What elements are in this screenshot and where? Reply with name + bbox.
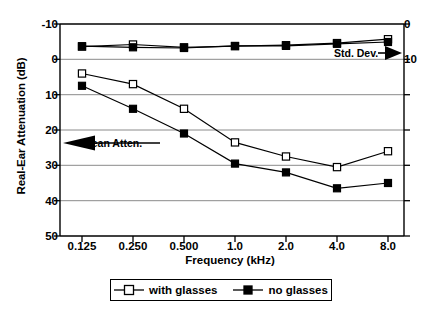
filled-square-marker — [232, 160, 239, 167]
filled-square-marker — [181, 45, 188, 52]
y2-tick-label: 10 — [404, 53, 438, 65]
std-dev-arrow — [378, 46, 402, 60]
filled-square-marker — [130, 105, 137, 112]
filled-square-marker — [283, 42, 290, 49]
y-tick-label: 20 — [24, 124, 58, 136]
gridlines — [60, 59, 404, 200]
open-square-marker — [180, 105, 187, 112]
y2-axis-tick-labels: 0 10 — [404, 0, 442, 312]
y-tick-label: 0 — [24, 53, 58, 65]
series-mean-atten-with-glasses — [78, 70, 391, 171]
chart-figure: Real-Ear Attenuation (dB) Frequency (kHz… — [0, 0, 442, 312]
legend-item-no-glasses[interactable]: no glasses — [233, 284, 327, 296]
legend-item-with-glasses[interactable]: with glasses — [114, 284, 217, 296]
x-tick-label: 8.0 — [358, 240, 418, 252]
filled-square-marker-icon — [233, 284, 263, 296]
filled-square-marker — [334, 185, 341, 192]
x-axis-label: Frequency (kHz) — [60, 254, 400, 266]
y-tick-label: 10 — [24, 89, 58, 101]
y-tick-label: -10 — [24, 18, 58, 30]
y-tick-label: 40 — [24, 195, 58, 207]
mean-attenuation-annotation: Mean Atten. — [83, 137, 142, 149]
open-square-marker — [282, 153, 289, 160]
chart-legend: with glasses no glasses — [110, 279, 332, 301]
filled-square-marker — [181, 130, 188, 137]
series-line — [82, 74, 388, 168]
open-square-marker-icon — [114, 284, 144, 296]
open-square-marker — [129, 81, 136, 88]
y-axis-tick-labels: -10 0 10 20 30 40 50 — [14, 0, 58, 312]
filled-square-marker — [385, 39, 392, 46]
open-square-marker — [231, 139, 238, 146]
open-square-marker — [78, 70, 85, 77]
filled-square-marker — [130, 44, 137, 51]
filled-square-marker — [283, 169, 290, 176]
std-dev-annotation: Std. Dev. — [334, 47, 378, 59]
legend-label: no glasses — [268, 284, 327, 296]
y-tick-label: 30 — [24, 159, 58, 171]
y2-tick-label: 0 — [404, 18, 438, 30]
open-square-marker — [384, 148, 391, 155]
legend-label: with glasses — [149, 284, 217, 296]
filled-square-marker — [79, 82, 86, 89]
open-square-marker — [333, 164, 340, 171]
filled-square-marker — [232, 42, 239, 49]
filled-square-marker — [385, 180, 392, 187]
filled-square-marker — [79, 43, 86, 50]
